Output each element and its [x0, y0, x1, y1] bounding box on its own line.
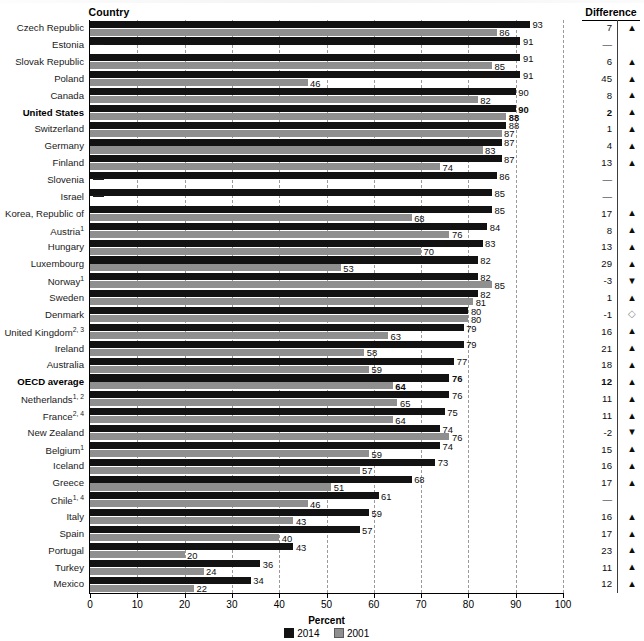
category-label: Switzerland — [0, 123, 84, 134]
category-label: Estonia — [0, 39, 84, 50]
chart-row: Switzerland88871▲ — [0, 121, 644, 138]
x-tick-label: 70 — [401, 599, 441, 610]
category-label: New Zealand — [0, 427, 84, 438]
chart-row: Chile1, 46146— — [0, 492, 644, 509]
footnote-marker: 1, 4 — [73, 494, 84, 501]
difference-value: 13 — [578, 157, 612, 168]
category-label: United Kingdom2, 3 — [0, 326, 84, 338]
bar-2014 — [90, 442, 440, 449]
difference-arrow-nochange: ◇ — [621, 308, 643, 320]
difference-value: 16 — [578, 511, 612, 522]
bar-2014 — [90, 273, 478, 280]
bar-2001 — [90, 433, 449, 440]
x-tick-label: 90 — [496, 599, 536, 610]
bar-2014 — [90, 71, 520, 78]
difference-arrow-up: ▲ — [621, 393, 643, 405]
chart-row: Iceland735716▲ — [0, 458, 644, 475]
bar-value-label-2014: 84 — [487, 222, 500, 233]
chart-row: Slovenia86— — [0, 172, 644, 189]
bar-value-label-2014: 73 — [435, 457, 448, 468]
x-tick — [468, 593, 469, 598]
bar-value-label-2014: 87 — [502, 137, 515, 148]
bar-value-label-2014: 57 — [360, 525, 373, 536]
difference-value: 17 — [578, 477, 612, 488]
no-data-dash — [93, 44, 104, 46]
x-tick — [327, 593, 328, 598]
bar-2001 — [90, 500, 308, 507]
column-header-difference: Difference — [578, 6, 644, 18]
bar-value-label-2014: 61 — [379, 491, 392, 502]
category-label: Greece — [0, 477, 84, 488]
bar-2014 — [90, 577, 251, 584]
bar-value-label-2014: 79 — [464, 323, 477, 334]
difference-arrow-up: ▲ — [621, 258, 643, 270]
difference-value: 8 — [578, 225, 612, 236]
no-data-dash — [93, 178, 104, 180]
bar-2001 — [90, 281, 492, 288]
bar-2014 — [90, 206, 492, 213]
chart-row: Germany87834▲ — [0, 138, 644, 155]
difference-value: 1 — [578, 123, 612, 134]
bar-value-label-2014: 91 — [520, 36, 533, 47]
chart-row: Portugal432023▲ — [0, 542, 644, 559]
bar-2014 — [90, 358, 454, 365]
category-label: Mexico — [0, 578, 84, 589]
legend-item[interactable]: 2014 — [284, 628, 320, 639]
chart-row: Turkey362411▲ — [0, 559, 644, 576]
difference-arrow-up: ▲ — [621, 561, 643, 573]
chart-row: Austria184768▲ — [0, 222, 644, 239]
bar-2014 — [90, 459, 435, 466]
difference-arrow-up: ▲ — [621, 56, 643, 68]
chart-row: Poland914645▲ — [0, 71, 644, 88]
chart-row: Finland877413▲ — [0, 155, 644, 172]
bar-2001 — [90, 534, 279, 541]
bar-2014 — [90, 324, 464, 331]
chart-row: OECD average766412▲ — [0, 374, 644, 391]
bar-value-label-2014: 85 — [492, 188, 505, 199]
difference-value: -2 — [578, 427, 612, 438]
difference-arrow-up: ▲ — [621, 241, 643, 253]
category-label: United States — [0, 107, 84, 118]
difference-value: 11 — [578, 562, 612, 573]
x-tick — [374, 593, 375, 598]
difference-value: — — [578, 39, 612, 50]
legend-item[interactable]: 2001 — [334, 628, 370, 639]
bar-value-label-2014: 76 — [449, 390, 462, 401]
bar-value-label-2014: 83 — [483, 238, 496, 249]
footnote-marker: 2, 4 — [73, 410, 84, 417]
chart-row: Slovak Republic91856▲ — [0, 54, 644, 71]
bar-2001 — [90, 113, 506, 120]
difference-value: — — [578, 174, 612, 185]
bar-2014 — [90, 341, 464, 348]
category-label: Chile1, 4 — [0, 494, 84, 506]
bar-2001 — [90, 163, 440, 170]
category-label: Canada — [0, 90, 84, 101]
difference-arrow-up: ▲ — [621, 460, 643, 472]
bar-value-label-2014: 36 — [260, 559, 273, 570]
difference-arrow-up: ▲ — [621, 292, 643, 304]
bar-value-label-2014: 91 — [520, 53, 533, 64]
x-tick-label: 20 — [165, 599, 205, 610]
chart-row: France2, 4756411▲ — [0, 408, 644, 425]
category-label: France2, 4 — [0, 410, 84, 422]
difference-arrow-up: ▲ — [621, 157, 643, 169]
chart-row: New Zealand7476-2▼ — [0, 424, 644, 441]
bar-2001 — [90, 146, 483, 153]
category-label: Ireland — [0, 343, 84, 354]
category-label: Israel — [0, 191, 84, 202]
bar-2014 — [90, 425, 440, 432]
x-tick-label: 60 — [354, 599, 394, 610]
bar-2001 — [90, 349, 364, 356]
bar-2014 — [90, 256, 478, 263]
bar-2001 — [90, 231, 449, 238]
bar-value-label-2014: 90 — [516, 87, 529, 98]
chart-legend: 20142001 — [90, 628, 563, 639]
difference-arrow-up: ▲ — [621, 342, 643, 354]
difference-arrow-up: ▲ — [621, 477, 643, 489]
x-tick-label: 40 — [259, 599, 299, 610]
difference-value: 13 — [578, 241, 612, 252]
bar-2001 — [90, 248, 421, 255]
chart-row: United States90882▲ — [0, 104, 644, 121]
bar-2001 — [90, 483, 331, 490]
x-tick-label: 0 — [70, 599, 110, 610]
